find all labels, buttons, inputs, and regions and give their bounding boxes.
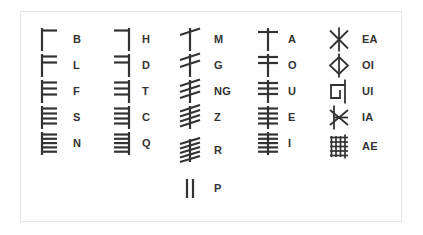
entry-ae: AE: [324, 133, 378, 160]
entry-c: C: [107, 104, 150, 131]
entry-a: A: [253, 26, 296, 53]
ogham-h-glyph: [107, 26, 141, 53]
entry-label: NG: [214, 86, 231, 97]
entry-i: I: [253, 130, 291, 157]
ogham-r-glyph: [176, 137, 210, 164]
entry-r: R: [176, 137, 222, 164]
entry-label: D: [142, 60, 150, 71]
entry-label: UI: [362, 86, 373, 97]
entry-label: F: [73, 86, 80, 97]
entry-label: Q: [142, 138, 151, 149]
ogham-t-glyph: [107, 78, 141, 105]
entry-label: L: [73, 60, 80, 71]
entry-g: G: [176, 52, 223, 79]
ogham-chart-frame: B L: [20, 11, 402, 222]
ogham-ae-grid-glyph: [324, 133, 358, 160]
ogham-u-glyph: [253, 78, 287, 105]
entry-label: H: [142, 34, 150, 45]
entry-f: F: [35, 78, 80, 105]
ogham-n-glyph: [35, 130, 69, 157]
entry-label: E: [288, 112, 296, 123]
entry-b: B: [35, 26, 81, 53]
entry-l: L: [35, 52, 80, 79]
entry-ng: NG: [176, 78, 231, 105]
ogham-a-glyph: [253, 26, 287, 53]
entry-label: T: [142, 86, 149, 97]
entry-label: S: [73, 112, 81, 123]
entry-label: OI: [362, 60, 374, 71]
entry-oi: OI: [324, 52, 374, 79]
entry-label: P: [214, 183, 222, 194]
entry-h: H: [107, 26, 150, 53]
ogham-p-glyph: [176, 175, 210, 202]
entry-n: N: [35, 130, 81, 157]
ogham-o-glyph: [253, 52, 287, 79]
ogham-b-glyph: [35, 26, 69, 53]
entry-e: E: [253, 104, 296, 131]
entry-ia: IA: [324, 104, 373, 131]
ogham-e-glyph: [253, 104, 287, 131]
entry-label: I: [288, 138, 291, 149]
entry-label: U: [288, 86, 296, 97]
ogham-i-glyph: [253, 130, 287, 157]
ogham-m-glyph: [176, 26, 210, 53]
entry-z: Z: [176, 104, 221, 131]
entry-s: S: [35, 104, 81, 131]
entry-ui: UI: [324, 78, 373, 105]
ogham-s-glyph: [35, 104, 69, 131]
entry-m: M: [176, 26, 223, 53]
ogham-d-glyph: [107, 52, 141, 79]
ogham-ia-arrow-glyph: [324, 104, 358, 131]
entry-d: D: [107, 52, 150, 79]
entry-label: A: [288, 34, 296, 45]
entry-label: AE: [362, 141, 378, 152]
entry-label: N: [73, 138, 81, 149]
entry-label: M: [214, 34, 223, 45]
ogham-l-glyph: [35, 52, 69, 79]
entry-t: T: [107, 78, 149, 105]
entry-ea: EA: [324, 26, 378, 53]
ogham-ui-hook-glyph: [324, 78, 358, 105]
entry-label: C: [142, 112, 150, 123]
ogham-f-glyph: [35, 78, 69, 105]
entry-label: EA: [362, 34, 378, 45]
entry-label: G: [214, 60, 223, 71]
entry-label: R: [214, 145, 222, 156]
entry-o: O: [253, 52, 297, 79]
entry-label: Z: [214, 112, 221, 123]
entry-label: O: [288, 60, 297, 71]
ogham-ng-glyph: [176, 78, 210, 105]
entry-label: B: [73, 34, 81, 45]
ogham-z-glyph: [176, 104, 210, 131]
entry-u: U: [253, 78, 296, 105]
entry-label: IA: [362, 112, 373, 123]
ogham-g-glyph: [176, 52, 210, 79]
ogham-ea-star-glyph: [324, 26, 358, 53]
ogham-q-glyph: [107, 130, 141, 157]
entry-q: Q: [107, 130, 151, 157]
ogham-oi-diamond-glyph: [324, 52, 358, 79]
entry-p: P: [176, 175, 222, 202]
ogham-c-glyph: [107, 104, 141, 131]
